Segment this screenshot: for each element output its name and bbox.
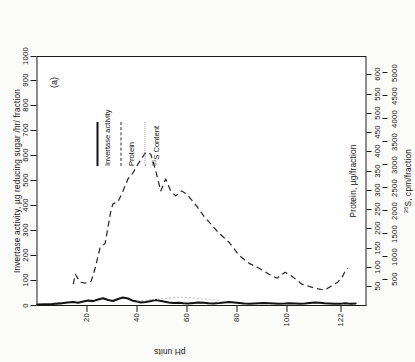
tick-s35-4000	[382, 118, 387, 119]
ticklabel-protein-50: 50	[372, 276, 381, 296]
legend-s35-text: S Content	[152, 126, 161, 160]
tick-ph-100	[286, 306, 287, 312]
tick-protein-400	[366, 151, 371, 152]
ticklabel-s35-500: 500	[389, 267, 398, 291]
tick-s35-3000	[382, 164, 387, 165]
ticklabel-s35-1000: 1000	[389, 245, 398, 269]
ticklabel-invertase-600: 600	[20, 145, 29, 165]
tick-s35-3500	[382, 141, 387, 142]
tick-protein-250	[366, 209, 371, 210]
ticklabel-protein-300: 300	[372, 180, 381, 200]
ticklabel-s35-2000: 2000	[389, 199, 398, 223]
tick-protein-550	[366, 94, 371, 95]
tick-invertase-900	[30, 80, 36, 81]
tick-protein-500	[366, 113, 371, 114]
series-s35-content	[137, 297, 219, 301]
ticklabel-ph-122: 122	[335, 313, 344, 336]
ticklabel-s35-4500: 4500	[389, 84, 398, 108]
ticklabel-ph-20: 20	[81, 313, 90, 333]
tick-s35-1000	[382, 256, 387, 257]
tick-s35-5000	[382, 72, 387, 73]
ticklabel-s35-1500: 1500	[389, 222, 398, 246]
legend-s35-superscript: 35	[150, 160, 156, 166]
ticklabel-invertase-100: 100	[20, 270, 29, 290]
legend-label-s35-content: 35S Content	[150, 86, 161, 166]
tick-s35-2000	[382, 210, 387, 211]
ticklabel-protein-200: 200	[372, 218, 381, 238]
tick-invertase-500	[30, 180, 36, 181]
s35-superscript: 35	[402, 207, 408, 214]
series-protein	[73, 152, 347, 290]
tick-invertase-400	[30, 205, 36, 206]
data-curves	[37, 57, 365, 305]
tick-ph-60	[186, 306, 187, 312]
ticklabel-invertase-800: 800	[20, 95, 29, 115]
ticklabel-protein-400: 400	[372, 141, 381, 161]
tick-ph-20	[86, 306, 87, 312]
tick-invertase-600	[30, 155, 36, 156]
ticklabel-invertase-700: 700	[20, 120, 29, 140]
ticklabel-invertase-300: 300	[20, 220, 29, 240]
tick-protein-450	[366, 132, 371, 133]
ticklabel-s35-3000: 3000	[389, 153, 398, 177]
tick-invertase-100	[30, 280, 36, 281]
ticklabel-ph-100: 100	[281, 313, 290, 336]
legend-label-invertase-activity: Invertase activity	[102, 86, 111, 166]
plot-area	[36, 56, 366, 306]
tick-s35-4500	[382, 95, 387, 96]
tick-invertase-0	[30, 305, 36, 306]
tick-s35-500	[382, 279, 387, 280]
series-invertase-activity	[37, 297, 355, 304]
ticklabel-protein-500: 500	[372, 103, 381, 123]
ticklabel-invertase-400: 400	[20, 195, 29, 215]
ticklabel-ph-60: 60	[181, 313, 190, 333]
tick-ph-80	[236, 306, 237, 312]
tick-protein-50	[366, 286, 371, 287]
tick-invertase-1000	[30, 56, 36, 57]
ticklabel-s35-3500: 3500	[389, 130, 398, 154]
ticklabel-protein-550: 550	[372, 84, 381, 104]
legend-label-protein: Protein	[126, 86, 135, 166]
tick-protein-350	[366, 171, 371, 172]
ticklabel-protein-600: 600	[372, 64, 381, 84]
ticklabel-protein-100: 100	[372, 257, 381, 277]
axis-title-s35-text: S, cpm/fraction	[404, 149, 413, 207]
legend-swatch-invertase-activity	[96, 122, 98, 166]
tick-s35-1500	[382, 233, 387, 234]
tick-protein-100	[366, 267, 371, 268]
ticklabel-protein-150: 150	[372, 238, 381, 258]
ticklabel-invertase-1000: 1000	[20, 44, 29, 68]
tick-invertase-800	[30, 105, 36, 106]
ticklabel-invertase-0: 0	[20, 299, 29, 312]
tick-invertase-300	[30, 230, 36, 231]
ticklabel-ph-80: 80	[231, 313, 240, 333]
panel-label: (a)	[48, 77, 58, 88]
tick-protein-300	[366, 190, 371, 191]
tick-protein-150	[366, 248, 371, 249]
tick-invertase-700	[30, 130, 36, 131]
tick-s35-2500	[382, 187, 387, 188]
ticklabel-protein-450: 450	[372, 122, 381, 142]
axis-title-protein: Protein, µg/fraction	[348, 56, 357, 306]
ticklabel-protein-350: 350	[372, 161, 381, 181]
ticklabel-s35-4000: 4000	[389, 107, 398, 131]
figure-panel: Invertase activity, µg reducing sugar /h…	[0, 0, 415, 362]
ticklabel-protein-250: 250	[372, 199, 381, 219]
ticklabel-invertase-200: 200	[20, 245, 29, 265]
axis-title-s35: 35S, cpm/fraction	[402, 56, 413, 306]
tick-ph-122	[340, 306, 341, 312]
tick-protein-600	[366, 74, 371, 75]
ticklabel-invertase-500: 500	[20, 170, 29, 190]
tick-invertase-200	[30, 255, 36, 256]
ticklabel-s35-5000: 5000	[389, 61, 398, 85]
legend-swatch-s35-content	[144, 122, 145, 166]
ticklabel-invertase-900: 900	[20, 70, 29, 90]
axis-title-ph: pH units	[153, 347, 185, 356]
ticklabel-s35-2500: 2500	[389, 176, 398, 200]
rotated-chart-container: Invertase activity, µg reducing sugar /h…	[0, 0, 415, 362]
tick-protein-200	[366, 228, 371, 229]
ticklabel-ph-40: 40	[131, 313, 140, 333]
tick-ph-40	[136, 306, 137, 312]
legend-swatch-protein	[120, 122, 121, 166]
